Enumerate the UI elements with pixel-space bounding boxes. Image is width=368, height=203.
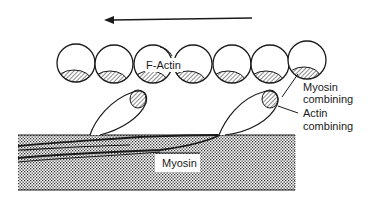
arrowhead-left-icon	[104, 16, 114, 24]
f-actin-filament: F-Actin	[56, 41, 326, 95]
myosin-combining-leader	[282, 74, 298, 97]
actin-monomer	[56, 44, 95, 94]
direction-arrow	[104, 16, 252, 24]
myosin-head	[90, 90, 147, 135]
f-actin-label: F-Actin	[146, 59, 181, 71]
svg-text:combining: combining	[303, 120, 353, 132]
myosin-filament: Myosin	[18, 135, 295, 190]
actin-combining-label: Actin combining	[303, 107, 353, 132]
svg-text:Myosin: Myosin	[303, 81, 338, 93]
actin-combining-leader	[278, 106, 298, 113]
actin-monomer	[92, 45, 133, 95]
actomyosin-diagram: Myosin	[0, 0, 368, 203]
myosin-head	[219, 90, 278, 135]
myosin-label: Myosin	[162, 157, 197, 169]
actin-monomer	[248, 45, 289, 95]
actin-monomer	[210, 45, 251, 95]
svg-text:Actin: Actin	[303, 107, 327, 119]
svg-text:combining: combining	[303, 93, 353, 105]
myosin-combining-label: Myosin combining	[303, 81, 353, 105]
